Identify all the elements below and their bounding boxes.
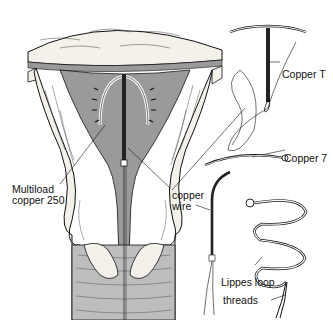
label-copper-7: Copper 7 xyxy=(284,153,327,164)
uterus-cross-section xyxy=(28,29,222,320)
label-multiload: Multiload copper 250 xyxy=(12,184,65,206)
copper-7-device xyxy=(204,155,288,315)
label-lippes-loop: Lippes loop xyxy=(221,277,275,288)
label-copper-wire-line2: wire xyxy=(172,201,204,212)
iud-diagram: Multiload copper 250 copper wire Copper … xyxy=(0,0,333,320)
label-multiload-line2: copper 250 xyxy=(12,195,65,206)
label-copper-wire: copper wire xyxy=(172,190,204,212)
copper-t-device xyxy=(228,26,306,151)
label-threads: threads xyxy=(223,295,258,306)
label-copper-t: Copper T xyxy=(282,69,326,80)
